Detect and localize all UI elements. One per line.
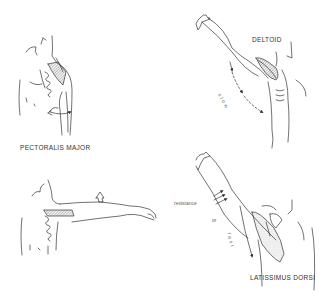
- muscle-diagram: PECTORALIS MAJOR DELTOID LATISSIMUS DORS…: [0, 0, 325, 296]
- pectoralis-horizontal-figure: [21, 180, 156, 255]
- latissimus-dorsi-label: LATISSIMUS DORSI: [250, 274, 315, 281]
- pectoralis-major-label: PECTORALIS MAJOR: [20, 144, 90, 151]
- deltoid-label: DELTOID: [252, 36, 282, 43]
- resistance-label: resistance: [174, 200, 197, 206]
- or-label: or: [212, 217, 216, 223]
- pectoralis-major-figure: [19, 36, 72, 135]
- deltoid-figure: [196, 15, 306, 148]
